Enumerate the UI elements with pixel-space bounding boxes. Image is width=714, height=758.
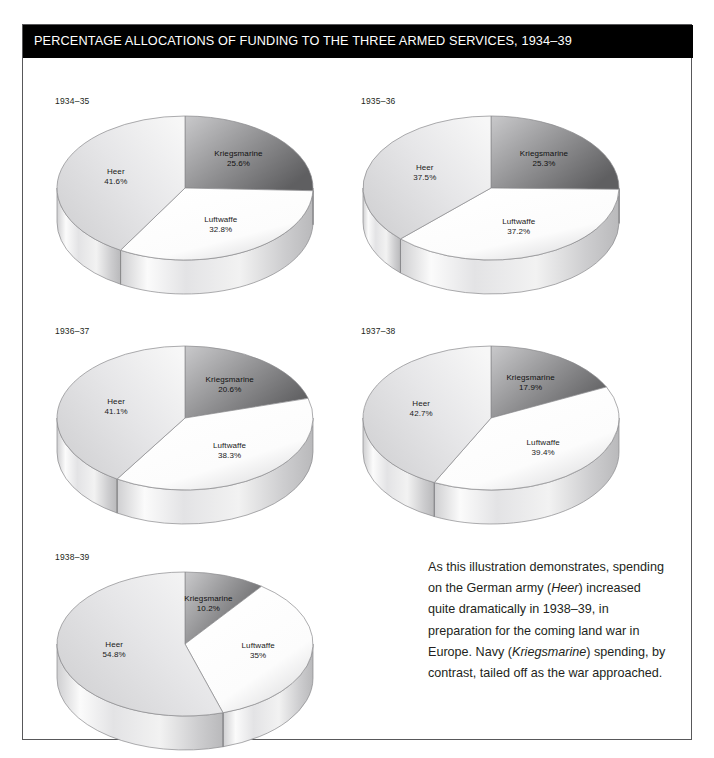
pie-slice-value: 39.4% bbox=[527, 448, 560, 458]
pie-slice-value: 35% bbox=[242, 651, 275, 661]
pie-slice-label: Luftwaffe37.2% bbox=[502, 217, 535, 237]
pie-chart: Kriegsmarine20.6%Luftwaffe38.3%Heer41.1% bbox=[55, 342, 315, 528]
page-title: PERCENTAGE ALLOCATIONS OF FUNDING TO THE… bbox=[34, 33, 572, 48]
pie-slice-name: Kriegsmarine bbox=[184, 594, 232, 603]
pie-slice-value: 10.2% bbox=[184, 604, 232, 614]
pie-panel: 1936–37Kriegsmarine20.6%Luftwaffe38.3%He… bbox=[55, 326, 325, 542]
pie-slice-label: Heer42.7% bbox=[410, 399, 433, 419]
pie-panel-year-label: 1936–37 bbox=[55, 326, 90, 336]
pie-slice-name: Kriegsmarine bbox=[506, 373, 554, 382]
pie-slice-label: Kriegsmarine10.2% bbox=[184, 594, 232, 614]
pie-slice-label: Luftwaffe32.8% bbox=[204, 215, 237, 235]
pie-panel: 1935–36Kriegsmarine25.3%Luftwaffe37.2%He… bbox=[361, 96, 631, 312]
caption-term-heer: Heer bbox=[551, 581, 578, 595]
pie-slice-label: Heer37.5% bbox=[413, 163, 436, 183]
pie-panel-year-label: 1938–39 bbox=[55, 552, 90, 562]
pie-panel-year-label: 1935–36 bbox=[361, 96, 396, 106]
pie-slice-label: Luftwaffe38.3% bbox=[213, 441, 246, 461]
caption-line-1: As this illustration demonstrates, bbox=[428, 560, 609, 574]
pie-slice-name: Kriegsmarine bbox=[206, 375, 254, 384]
pie-slice-label: Kriegsmarine17.9% bbox=[506, 373, 554, 393]
pie-slice-value: 37.5% bbox=[413, 173, 436, 183]
pie-slice-label: Heer41.6% bbox=[104, 167, 127, 187]
pie-slice-value: 42.7% bbox=[410, 409, 433, 419]
caption-text: As this illustration demonstrates, spend… bbox=[428, 557, 670, 684]
pie-slice-name: Luftwaffe bbox=[204, 215, 237, 224]
pie-panel-year-label: 1937–38 bbox=[361, 326, 396, 336]
pie-slice-name: Luftwaffe bbox=[502, 217, 535, 226]
pie-slice-name: Kriegsmarine bbox=[520, 149, 568, 158]
pie-panel: 1934–35Kriegsmarine25.6%Luftwaffe32.8%He… bbox=[55, 96, 325, 312]
pie-slice-label: Luftwaffe35% bbox=[242, 641, 275, 661]
pie-chart: Kriegsmarine25.6%Luftwaffe32.8%Heer41.6% bbox=[55, 112, 315, 298]
pie-slice-value: 17.9% bbox=[506, 383, 554, 393]
pie-slice-name: Luftwaffe bbox=[213, 441, 246, 450]
pie-slice-label: Kriegsmarine20.6% bbox=[206, 375, 254, 395]
pie-slice-value: 37.2% bbox=[502, 227, 535, 237]
pie-slice-value: 54.8% bbox=[103, 650, 126, 660]
pie-slice-name: Heer bbox=[412, 399, 430, 408]
pie-slice-value: 25.6% bbox=[214, 159, 262, 169]
pie-slice-name: Heer bbox=[107, 397, 125, 406]
pie-chart: Kriegsmarine17.9%Luftwaffe39.4%Heer42.7% bbox=[361, 342, 621, 528]
caption-line-2b: ) bbox=[578, 581, 582, 595]
pie-slice-label: Heer54.8% bbox=[103, 640, 126, 660]
pie-slice-name: Luftwaffe bbox=[527, 438, 560, 447]
pie-slice-value: 41.6% bbox=[104, 177, 127, 187]
caption-term-kriegsmarine: Kriegsmarine bbox=[512, 645, 586, 659]
pie-slice-name: Heer bbox=[416, 163, 434, 172]
pie-panel: 1938–39Kriegsmarine10.2%Luftwaffe35%Heer… bbox=[55, 552, 325, 758]
caption-line-7: war approached. bbox=[568, 666, 662, 680]
pie-slice-value: 41.1% bbox=[105, 407, 128, 417]
pie-slice-name: Heer bbox=[107, 167, 125, 176]
pie-chart: Kriegsmarine10.2%Luftwaffe35%Heer54.8% bbox=[55, 568, 315, 754]
pie-slice-value: 25.3% bbox=[520, 159, 568, 169]
title-bar: PERCENTAGE ALLOCATIONS OF FUNDING TO THE… bbox=[23, 25, 693, 58]
pie-slice-label: Kriegsmarine25.3% bbox=[520, 149, 568, 169]
pie-slice-label: Heer41.1% bbox=[105, 397, 128, 417]
pie-panel-year-label: 1934–35 bbox=[55, 96, 90, 106]
pie-slice-value: 20.6% bbox=[206, 385, 254, 395]
figure-frame: PERCENTAGE ALLOCATIONS OF FUNDING TO THE… bbox=[22, 24, 692, 740]
pie-slice-label: Kriegsmarine25.6% bbox=[214, 149, 262, 169]
caption-line-5b: ) bbox=[586, 645, 590, 659]
pie-slice-value: 32.8% bbox=[204, 225, 237, 235]
pie-slice-name: Luftwaffe bbox=[242, 641, 275, 650]
pie-panel: 1937–38Kriegsmarine17.9%Luftwaffe39.4%He… bbox=[361, 326, 631, 542]
pie-slice-name: Kriegsmarine bbox=[214, 149, 262, 158]
pie-slice-label: Luftwaffe39.4% bbox=[527, 438, 560, 458]
pie-chart: Kriegsmarine25.3%Luftwaffe37.2%Heer37.5% bbox=[361, 112, 621, 298]
pie-slice-value: 38.3% bbox=[213, 451, 246, 461]
pie-slice-name: Heer bbox=[105, 640, 123, 649]
